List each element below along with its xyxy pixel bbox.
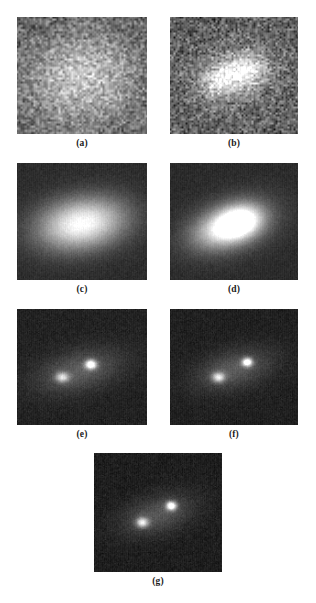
panel-caption-f: (f) xyxy=(170,429,298,440)
grayscale-image-c xyxy=(17,163,147,280)
panel-caption-d: (d) xyxy=(170,284,298,295)
image-panel-b xyxy=(170,17,298,134)
image-panel-a xyxy=(17,17,147,134)
image-panel-g xyxy=(94,453,222,572)
grayscale-image-f xyxy=(170,309,298,425)
panel-caption-e: (e) xyxy=(17,429,147,440)
panel-caption-a: (a) xyxy=(17,138,147,149)
image-panel-d xyxy=(170,163,298,280)
panel-caption-c: (c) xyxy=(17,284,147,295)
image-panel-f xyxy=(170,309,298,425)
grayscale-image-b xyxy=(170,17,298,134)
image-panel-c xyxy=(17,163,147,280)
grayscale-image-g xyxy=(94,453,222,572)
grayscale-image-a xyxy=(17,17,147,134)
image-panel-e xyxy=(17,309,147,425)
figure-panel-grid: (a)(b)(c)(d)(e)(f)(g) xyxy=(0,0,316,603)
grayscale-image-e xyxy=(17,309,147,425)
grayscale-image-d xyxy=(170,163,298,280)
panel-caption-g: (g) xyxy=(94,576,222,587)
panel-caption-b: (b) xyxy=(170,138,298,149)
